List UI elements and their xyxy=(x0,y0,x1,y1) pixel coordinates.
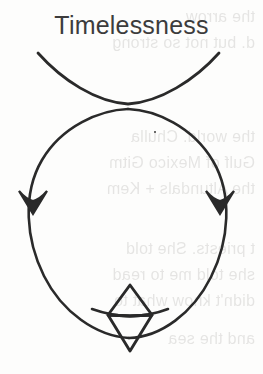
timelessness-diagram xyxy=(0,0,263,374)
diagram-page: the arrow d. but not so strong the world… xyxy=(0,0,263,374)
circle-left-arc xyxy=(29,109,129,338)
right-arrowhead xyxy=(206,191,234,214)
left-arrowhead xyxy=(19,191,47,214)
diamond-upper-half xyxy=(108,285,152,316)
cusp-arc xyxy=(38,53,219,104)
ink-strokes xyxy=(19,53,234,351)
ink-speck xyxy=(154,131,156,133)
diamond-lower-half xyxy=(108,315,152,351)
